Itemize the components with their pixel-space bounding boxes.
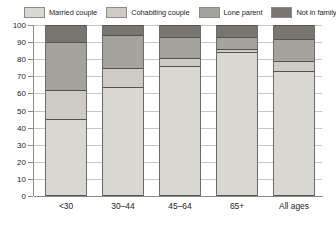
bar-segment-not-in-family[interactable] [102,25,144,35]
bar-segment-not-in-family[interactable] [273,25,315,39]
bar-edge [257,25,258,196]
y-axis-tick [28,93,33,94]
y-tick-label: 70 [17,72,26,81]
x-tick-label-under-30: <30 [59,201,73,211]
bar-edge [143,25,144,196]
x-axis-labels: <30 30–44 45–64 65+ All ages [34,199,322,215]
y-axis-tick [28,162,33,163]
bar-edge [45,25,46,196]
bar-segment-lone-parent[interactable] [159,37,201,58]
bar-segment-cohabiting-couple[interactable] [159,58,201,67]
y-tick-label: 0 [22,192,26,201]
clipped-title-sliver [20,0,25,4]
bar-segment-married-couple[interactable] [102,87,144,196]
y-axis-labels: 100 90 80 70 60 50 40 30 20 10 0 [0,25,26,196]
legend-item-cohabiting-couple[interactable]: Cohabiting couple [106,7,189,18]
legend-swatch-icon [199,7,220,18]
bar-group-65-plus[interactable] [216,25,258,196]
y-tick-label: 20 [17,157,26,166]
legend-swatch-icon [106,7,127,18]
y-tick-label: 30 [17,140,26,149]
y-axis-tick [28,59,33,60]
bar-segment-lone-parent[interactable] [216,37,258,49]
bar-group-under-30[interactable] [45,25,87,196]
legend-item-not-in-family[interactable]: Not in family [271,7,336,18]
y-axis-tick [28,76,33,77]
bar-edge [273,25,274,196]
bar-group-all-ages[interactable] [273,25,315,196]
bar-segment-not-in-family[interactable] [45,25,87,42]
bar-segment-cohabiting-couple[interactable] [273,61,315,71]
bar-edge [102,25,103,196]
y-tick-label: 90 [17,38,26,47]
legend-item-married-couple[interactable]: Married couple [24,7,97,18]
bar-segment-married-couple[interactable] [45,119,87,196]
bar-segment-married-couple[interactable] [159,66,201,196]
legend-label: Cohabiting couple [131,8,189,17]
y-tick-label: 40 [17,123,26,132]
bar-segment-cohabiting-couple[interactable] [45,90,87,119]
x-axis-line [34,196,323,197]
bar-segment-not-in-family[interactable] [216,25,258,37]
y-tick-label: 50 [17,106,26,115]
bars-container [34,25,322,196]
y-axis-tick [28,196,33,197]
y-axis-tick [28,145,33,146]
bar-edge [86,25,87,196]
bar-segment-lone-parent[interactable] [45,42,87,90]
y-axis-tick [28,42,33,43]
y-axis-tick [28,25,33,26]
y-axis-tick [28,111,33,112]
x-tick-label-45-64: 45–64 [168,201,191,211]
y-tick-label: 10 [17,174,26,183]
bar-segment-lone-parent[interactable] [273,39,315,61]
bar-segment-lone-parent[interactable] [102,35,144,67]
bar-edge [159,25,160,196]
y-tick-label: 80 [17,55,26,64]
x-tick-label-all-ages: All ages [279,201,309,211]
legend-label: Married couple [49,8,97,17]
y-axis-tick [28,128,33,129]
legend-item-lone-parent[interactable]: Lone parent [199,7,263,18]
legend-swatch-icon [271,7,292,18]
bar-segment-cohabiting-couple[interactable] [102,68,144,87]
bar-edge [216,25,217,196]
y-tick-label: 60 [17,89,26,98]
legend-label: Lone parent [224,8,263,17]
bar-segment-married-couple[interactable] [216,52,258,196]
bar-segment-not-in-family[interactable] [159,25,201,37]
x-tick-label-65-plus: 65+ [230,201,244,211]
bar-edge [314,25,315,196]
chart-legend: Married couple Cohabiting couple Lone pa… [24,6,324,18]
plot-area [34,25,322,196]
bar-group-45-64[interactable] [159,25,201,196]
bar-segment-cohabiting-couple[interactable] [216,49,258,52]
x-tick-label-30-44: 30–44 [111,201,134,211]
y-tick-label: 100 [13,21,26,30]
legend-label: Not in family [296,8,336,17]
bar-segment-married-couple[interactable] [273,71,315,196]
bar-group-30-44[interactable] [102,25,144,196]
legend-swatch-icon [24,7,45,18]
y-axis-tick [28,179,33,180]
bar-edge [200,25,201,196]
